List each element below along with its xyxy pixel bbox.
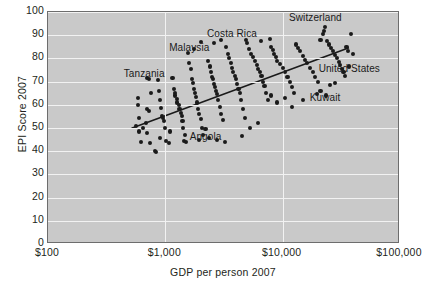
data-point: [298, 49, 302, 53]
data-point: [187, 61, 191, 65]
plot-area: TanzaniaMalaysiaCosta RicaSwitzerlandUni…: [47, 11, 399, 243]
data-point: [208, 64, 212, 68]
data-point: [209, 70, 213, 74]
data-point: [259, 39, 263, 43]
data-point: [170, 76, 174, 80]
data-point: [305, 61, 309, 65]
y-tick-label: 10: [2, 214, 44, 225]
data-point: [316, 80, 320, 84]
data-point: [238, 91, 242, 95]
x-axis-tick-labels: $100$1,000$10,000$100,000: [0, 246, 426, 262]
data-point: [264, 91, 268, 95]
data-point: [206, 59, 210, 63]
data-point: [269, 93, 273, 97]
data-point: [283, 96, 287, 100]
data-point: [137, 116, 141, 120]
data-point: [283, 70, 287, 74]
gridline-vertical: [283, 12, 284, 242]
data-point: [275, 100, 279, 104]
data-point: [239, 98, 243, 102]
data-point: [261, 80, 265, 84]
data-point: [318, 38, 322, 42]
data-point: [240, 134, 244, 138]
data-point: [351, 52, 355, 56]
y-axis-tick-labels: 0102030405060708090100: [0, 11, 44, 243]
x-axis-title: GDP per person 2007: [47, 266, 399, 278]
data-point: [159, 106, 163, 110]
data-point: [285, 75, 289, 79]
data-point: [144, 121, 148, 125]
data-point: [157, 89, 161, 93]
data-point: [183, 133, 187, 137]
data-point: [322, 29, 326, 33]
gridline-horizontal: [48, 105, 398, 106]
country-annotation: Malaysia: [169, 42, 209, 53]
data-point: [226, 52, 230, 56]
data-point: [262, 84, 266, 88]
data-point: [218, 105, 222, 109]
data-point: [292, 91, 296, 95]
data-point: [224, 45, 228, 49]
data-point: [221, 118, 225, 122]
x-tick-label: $10,000: [262, 246, 301, 258]
data-point: [247, 47, 251, 51]
gridline-horizontal: [48, 128, 398, 129]
y-tick-label: 50: [2, 121, 44, 132]
gridline-horizontal: [48, 221, 398, 222]
data-point: [136, 103, 140, 107]
gridline-horizontal: [48, 198, 398, 199]
data-point: [158, 98, 162, 102]
data-point: [288, 80, 292, 84]
data-point: [192, 87, 196, 91]
data-point: [301, 98, 305, 102]
data-point: [248, 126, 252, 130]
data-point: [212, 41, 216, 45]
data-point: [346, 49, 350, 53]
data-point: [227, 56, 231, 60]
y-tick-label: 20: [2, 191, 44, 202]
country-annotation: Angola: [190, 131, 222, 142]
data-point: [196, 107, 200, 111]
data-point: [328, 83, 332, 87]
data-point: [189, 67, 193, 71]
data-point: [137, 129, 141, 133]
data-point: [290, 105, 294, 109]
data-point: [236, 87, 240, 91]
gridline-horizontal: [48, 82, 398, 83]
data-point: [256, 121, 260, 125]
data-point: [172, 87, 176, 91]
data-point: [154, 150, 158, 154]
gridline-horizontal: [48, 58, 398, 59]
data-point: [141, 126, 145, 130]
data-point: [194, 95, 198, 99]
y-tick-label: 80: [2, 51, 44, 62]
data-point: [266, 98, 270, 102]
data-point: [145, 131, 149, 135]
country-annotation: Switzerland: [289, 12, 342, 23]
data-point: [281, 66, 285, 70]
data-point: [163, 126, 167, 130]
data-point: [197, 112, 201, 116]
gridline-horizontal: [48, 12, 398, 13]
data-point: [241, 107, 245, 111]
data-point: [148, 141, 152, 145]
y-tick-label: 60: [2, 98, 44, 109]
data-point: [243, 116, 247, 120]
data-point: [253, 59, 257, 63]
data-point: [230, 66, 234, 70]
data-point: [343, 74, 347, 78]
data-point: [149, 91, 153, 95]
data-point: [195, 100, 199, 104]
data-point: [134, 124, 138, 128]
y-tick-label: 30: [2, 167, 44, 178]
data-point: [223, 140, 227, 144]
data-point: [139, 140, 143, 144]
data-point: [181, 126, 185, 130]
data-point: [136, 96, 140, 100]
data-point: [333, 81, 337, 85]
data-point: [308, 66, 312, 70]
data-point: [344, 45, 348, 49]
data-point: [311, 70, 315, 74]
epi-gdp-scatter-figure: EPI Score 2007 0102030405060708090100 Ta…: [0, 0, 426, 287]
y-tick-label: 40: [2, 144, 44, 155]
